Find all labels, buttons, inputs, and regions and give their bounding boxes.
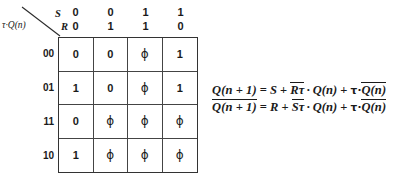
eq1-equals: =	[257, 83, 270, 98]
kmap-header-s-2: 1	[128, 5, 163, 19]
kmap-cell-r1c3: 1	[163, 72, 198, 106]
eq1-plus-1: +	[277, 83, 290, 98]
eq2-equals: =	[257, 100, 270, 115]
kmap-cell-r1c0: 1	[59, 72, 94, 106]
equation-q-next: Q(n + 1) = S + Rτ · Q(n) + τ· Q(n)	[212, 82, 418, 99]
equation-q-next-bar: Q(n + 1) = R + Sτ · Q(n) + τ· Q(n)	[212, 99, 418, 116]
kmap-row-label-3: 10	[24, 139, 56, 173]
kmap-cell-r2c0: 0	[59, 105, 94, 139]
kmap-cell-r2c1: ϕ	[94, 105, 129, 139]
kmap-header-s-1: 0	[93, 5, 128, 19]
kmap-figure: S R τ·Q(n) 0 0 1 1 0 1 1 0 00 01 11 10	[0, 0, 418, 182]
kmap-cell-r1c1: 0	[94, 72, 129, 106]
kmap-grid: 0 0 ϕ 1 1 0 ϕ 1 0 ϕ ϕ ϕ 1 ϕ ϕ ϕ	[58, 37, 198, 173]
kmap-header-row-s: 0 0 1 1	[58, 5, 198, 19]
kmap-block: S R τ·Q(n) 0 0 1 1 0 1 1 0 00 01 11 10	[0, 0, 205, 182]
eq2-dot-1: ·	[304, 100, 312, 115]
kmap-row-labels: 00 01 11 10	[24, 37, 56, 173]
eq1-term-rtau-bar: Rτ	[290, 82, 304, 97]
eq1-tau-prefix: τ·	[351, 84, 362, 96]
eq2-lhs-bar: Q(n + 1)	[212, 99, 257, 114]
kmap-cell-r0c3: 1	[163, 38, 198, 72]
kmap-cell-r0c1: 0	[94, 38, 129, 72]
kmap-cell-r3c0: 1	[59, 139, 94, 173]
kmap-header-s-0: 0	[58, 5, 93, 19]
kmap-header-r-3: 0	[163, 19, 198, 33]
kmap-header-row-r: 0 1 1 0	[58, 19, 198, 33]
kmap-row-axis-label: τ·Q(n)	[2, 20, 26, 30]
eq1-lhs: Q(n + 1)	[212, 83, 257, 98]
eq1-plus-2: +	[337, 83, 350, 98]
kmap-cell-r3c1: ϕ	[94, 139, 129, 173]
kmap-cell-r1c2: ϕ	[128, 72, 163, 106]
kmap-row-label-0: 00	[24, 37, 56, 71]
kmap-cell-r3c2: ϕ	[128, 139, 163, 173]
kmap-cell-r2c2: ϕ	[128, 105, 163, 139]
eq2-plus-2: +	[337, 100, 350, 115]
kmap-cell-r0c0: 0	[59, 38, 94, 72]
kmap-header-r-1: 1	[93, 19, 128, 33]
eq2-term-qn-bar: Q(n)	[361, 99, 386, 114]
kmap-row-label-2: 11	[24, 105, 56, 139]
equations-block: Q(n + 1) = S + Rτ · Q(n) + τ· Q(n) Q(n +…	[212, 82, 418, 116]
eq1-term-s: S	[270, 83, 277, 98]
eq2-term-qn: Q(n)	[313, 100, 338, 115]
kmap-row-label-1: 01	[24, 71, 56, 105]
kmap-cell-r3c3: ϕ	[163, 139, 198, 173]
eq2-tau-prefix: τ·	[351, 101, 362, 113]
eq2-term-stau-bar: Sτ	[292, 99, 305, 114]
eq1-term-qn-bar: Q(n)	[361, 82, 386, 97]
eq2-term-r: R	[270, 100, 278, 115]
kmap-column-headers: 0 0 1 1 0 1 1 0	[58, 5, 198, 35]
kmap-header-s-3: 1	[163, 5, 198, 19]
eq1-term-qn: Q(n)	[313, 83, 338, 98]
kmap-header-r-0: 0	[58, 19, 93, 33]
eq2-plus-1: +	[278, 100, 291, 115]
eq1-dot-1: ·	[304, 83, 312, 98]
kmap-cell-r2c3: ϕ	[163, 105, 198, 139]
kmap-header-r-2: 1	[128, 19, 163, 33]
kmap-cell-r0c2: ϕ	[128, 38, 163, 72]
